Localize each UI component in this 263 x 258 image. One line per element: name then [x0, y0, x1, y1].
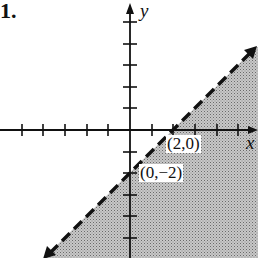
y-axis-label: y — [140, 0, 148, 22]
point-label-y-intercept: (0,−2) — [139, 164, 183, 182]
x-axis-label: x — [246, 132, 254, 154]
graph-canvas — [0, 0, 263, 258]
point-label-x-intercept: (2,0) — [166, 135, 201, 153]
problem-number: 1. — [0, 0, 17, 24]
y-axis-arrow-icon — [126, 3, 134, 14]
